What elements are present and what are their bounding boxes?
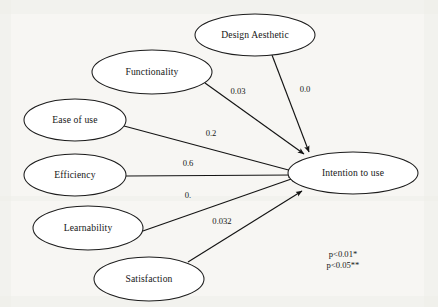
node-design-aesthetic[interactable]: Design Aesthetic: [195, 14, 315, 56]
node-label-design-aesthetic: Design Aesthetic: [221, 29, 289, 40]
node-functionality[interactable]: Functionality: [92, 50, 212, 94]
node-label-efficiency: Efficiency: [54, 169, 95, 180]
path-model-diagram: Design Aesthetic Functionality Ease of u…: [0, 0, 438, 307]
legend-line-1: p<0.01*: [329, 249, 357, 259]
node-label-satisfaction: Satisfaction: [125, 273, 172, 284]
node-label-intention-to-use: Intention to use: [322, 167, 384, 178]
legend-line-2: p<0.05**: [327, 260, 360, 270]
edge-coefficient-design-aesthetic: 0.0: [300, 84, 311, 94]
edge-coefficient-ease-of-use: 0.2: [206, 128, 217, 138]
path-model-canvas: Design Aesthetic Functionality Ease of u…: [0, 0, 438, 307]
node-intention-to-use[interactable]: Intention to use: [288, 152, 418, 194]
edge-coefficient-learnability: 0.: [185, 190, 191, 200]
edge-coefficient-satisfaction: 0.032: [212, 216, 231, 226]
node-satisfaction[interactable]: Satisfaction: [94, 257, 204, 301]
node-label-functionality: Functionality: [125, 66, 178, 77]
edge-coefficient-functionality: 0.03: [230, 86, 245, 96]
node-efficiency[interactable]: Efficiency: [24, 154, 126, 196]
node-label-learnability: Learnability: [64, 222, 113, 233]
node-ease-of-use[interactable]: Ease of use: [24, 99, 126, 141]
edge-coefficient-efficiency: 0.6: [183, 158, 194, 168]
significance-legend: p<0.01* p<0.05**: [327, 249, 360, 270]
node-label-ease-of-use: Ease of use: [52, 114, 97, 125]
node-learnability[interactable]: Learnability: [33, 206, 143, 250]
